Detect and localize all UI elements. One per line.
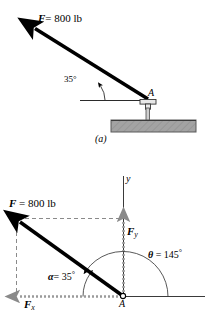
point-a-label-panel-b: A (119, 299, 125, 309)
angle-arc (101, 86, 105, 100)
force-value: = 800 lb (45, 12, 82, 24)
force-label-panel-a: F= 800 lb (38, 13, 82, 24)
panel-a-group (35, 29, 196, 133)
point-a-label-panel-a: A (148, 88, 154, 98)
theta-degree-sign: ° (179, 248, 182, 257)
y-axis-label: y (126, 174, 130, 184)
theta-angle-label: θ = 145° (148, 249, 182, 260)
figure-drawing (0, 0, 205, 314)
figure-container: F= 800 lb 35° A (a) F = 800 lb y Fy θ = … (0, 0, 205, 314)
fx-component-label: Fx (24, 299, 35, 312)
alpha-degree-sign: ° (72, 270, 75, 279)
figure-caption-a: (a) (95, 134, 107, 144)
alpha-value: = 35 (54, 271, 72, 282)
force-label-panel-b: F = 800 lb (9, 198, 56, 209)
alpha-angle-arc (83, 273, 90, 296)
fy-component-label: Fy (127, 226, 138, 239)
force-vector-arrow (35, 29, 148, 100)
fy-subscript: y (134, 230, 138, 239)
panel-b-group (17, 176, 206, 299)
alpha-angle-label: α= 35° (48, 271, 75, 282)
theta-value: = 145 (156, 249, 179, 260)
force-symbol: F (9, 197, 16, 209)
force-value: = 800 lb (19, 197, 56, 209)
theta-symbol: θ (148, 249, 153, 260)
angle-label-panel-a: 35° (64, 75, 77, 84)
force-vector-arrow (20, 222, 123, 296)
hatched-ground-block (111, 120, 196, 132)
fx-subscript: x (31, 303, 35, 312)
